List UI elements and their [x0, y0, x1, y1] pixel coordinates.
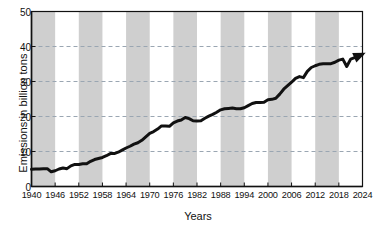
x-tick-label: 1982: [187, 190, 207, 200]
x-tick-label: 1952: [69, 190, 89, 200]
x-tick-label: 1976: [164, 190, 184, 200]
x-tick-label: 1970: [140, 190, 160, 200]
emissions-line-chart: Emissions in billion tons 01020304050 19…: [0, 0, 376, 229]
x-tick-labels: 1940194619521958196419701976198219881994…: [0, 0, 376, 229]
x-tick-label: 2006: [282, 190, 302, 200]
x-tick-label: 2018: [329, 190, 349, 200]
x-tick-label: 1940: [22, 190, 42, 200]
x-tick-label: 1964: [116, 190, 136, 200]
x-tick-label: 2012: [305, 190, 325, 200]
x-tick-label: 1994: [234, 190, 254, 200]
x-tick-label: 1988: [211, 190, 231, 200]
x-tick-label: 2000: [258, 190, 278, 200]
x-tick-label: 1958: [93, 190, 113, 200]
x-axis-title: Years: [33, 210, 363, 222]
x-tick-label: 2024: [353, 190, 373, 200]
x-tick-label: 1946: [45, 190, 65, 200]
